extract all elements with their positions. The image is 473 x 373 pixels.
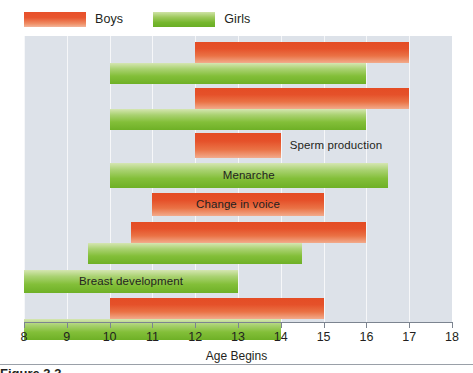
bar-row bbox=[24, 109, 452, 130]
x-axis-tick bbox=[238, 322, 239, 328]
x-axis-tick-label: 14 bbox=[274, 330, 288, 344]
bar-boys[interactable]: Change in voice bbox=[152, 193, 323, 216]
x-axis-title: Age Begins bbox=[0, 349, 473, 363]
bar-girls[interactable] bbox=[88, 243, 302, 264]
x-axis-tick bbox=[67, 322, 68, 328]
bar-boys[interactable] bbox=[110, 298, 324, 319]
x-axis-tick-label: 8 bbox=[21, 330, 28, 344]
bar-girls[interactable] bbox=[110, 109, 367, 130]
bar-label: Sperm production bbox=[290, 140, 382, 152]
x-axis-tick-label: 11 bbox=[146, 330, 159, 344]
x-axis-tick bbox=[324, 322, 325, 328]
x-axis-tick bbox=[366, 322, 367, 328]
x-axis-tick bbox=[452, 322, 453, 328]
plot-area: Skin oil and sweatUnderarm hairSperm pro… bbox=[24, 36, 452, 322]
legend-label-girls: Girls bbox=[224, 12, 250, 26]
x-axis-tick-label: 17 bbox=[402, 330, 416, 344]
x-axis-tick bbox=[195, 322, 196, 328]
caption-divider bbox=[0, 364, 473, 365]
x-axis-tick bbox=[24, 322, 25, 328]
bar-label: Breast development bbox=[79, 276, 183, 288]
bar-row bbox=[24, 222, 452, 243]
puberty-timeline-figure: Boys Girls Skin oil and sweatUnderarm ha… bbox=[0, 0, 473, 373]
legend-label-boys: Boys bbox=[95, 12, 123, 26]
bar-row bbox=[24, 243, 452, 264]
bar-row: Breast development bbox=[24, 270, 452, 293]
chart-legend: Boys Girls bbox=[24, 8, 280, 30]
legend-swatch-boys-icon bbox=[24, 12, 86, 27]
bar-rows: Skin oil and sweatUnderarm hairSperm pro… bbox=[24, 36, 452, 322]
x-axis-tick-label: 18 bbox=[445, 330, 459, 344]
bar-row bbox=[24, 298, 452, 319]
bar-label: Change in voice bbox=[196, 199, 280, 211]
x-axis-tick bbox=[110, 322, 111, 328]
bar-row: Sperm production bbox=[24, 133, 452, 158]
bar-boys[interactable]: Sperm production bbox=[195, 133, 281, 158]
x-axis-tick-label: 10 bbox=[103, 330, 117, 344]
bar-boys[interactable] bbox=[195, 88, 409, 109]
bar-girls[interactable] bbox=[110, 63, 367, 84]
legend-item-boys: Boys bbox=[24, 12, 153, 27]
bar-boys[interactable] bbox=[195, 42, 409, 63]
bar-boys[interactable] bbox=[131, 222, 366, 243]
bar-girls[interactable]: Breast development bbox=[24, 270, 238, 293]
legend-swatch-girls-icon bbox=[153, 12, 215, 27]
bar-row bbox=[24, 88, 452, 109]
x-axis-tick bbox=[409, 322, 410, 328]
x-axis-tick-label: 16 bbox=[359, 330, 373, 344]
x-axis-tick-label: 13 bbox=[231, 330, 245, 344]
x-axis-tick-label: 9 bbox=[63, 330, 70, 344]
bar-row: Menarche bbox=[24, 163, 452, 188]
x-axis-tick bbox=[152, 322, 153, 328]
bar-row bbox=[24, 42, 452, 63]
bar-label: Menarche bbox=[223, 170, 275, 182]
bar-row: Change in voice bbox=[24, 193, 452, 216]
bar-row bbox=[24, 63, 452, 84]
figure-caption: Figure 3.3 bbox=[0, 366, 473, 373]
bar-girls[interactable]: Menarche bbox=[110, 163, 388, 188]
x-axis-tick-label: 15 bbox=[317, 330, 331, 344]
x-axis-tick-label: 12 bbox=[188, 330, 202, 344]
legend-item-girls: Girls bbox=[153, 12, 280, 27]
gridline bbox=[452, 36, 453, 322]
x-axis-tick bbox=[281, 322, 282, 328]
